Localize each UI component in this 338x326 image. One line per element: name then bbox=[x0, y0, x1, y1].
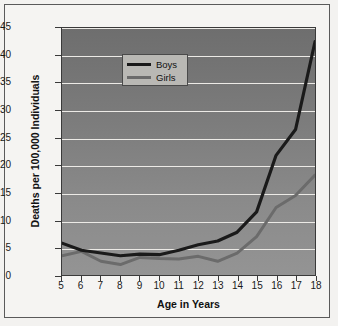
x-tick-mark bbox=[257, 276, 258, 281]
x-tick-label: 13 bbox=[208, 281, 228, 291]
x-tick-mark bbox=[81, 276, 82, 281]
y-tick-label: 30 bbox=[0, 105, 11, 115]
x-tick-mark bbox=[179, 276, 180, 281]
chart-frame: Deaths per 100,000 Individuals 051015202… bbox=[4, 4, 330, 318]
chart-legend: Boys Girls bbox=[122, 54, 188, 86]
y-tick-label: 15 bbox=[0, 188, 11, 198]
plot-area: Boys Girls bbox=[61, 27, 316, 276]
line-series-boys bbox=[62, 42, 315, 256]
legend-item-girls: Girls bbox=[127, 71, 183, 84]
x-tick-mark bbox=[159, 276, 160, 281]
x-axis-title: Age in Years bbox=[61, 298, 316, 310]
x-tick-mark bbox=[61, 276, 62, 281]
x-tick-mark bbox=[139, 276, 140, 281]
line-series-girls bbox=[62, 175, 315, 264]
x-tick-label: 17 bbox=[286, 281, 306, 291]
y-axis-title: Deaths per 100,000 Individuals bbox=[29, 41, 41, 261]
x-tick-label: 8 bbox=[110, 281, 130, 291]
y-tick-label: 10 bbox=[0, 216, 11, 226]
y-tick-label: 20 bbox=[0, 160, 11, 170]
y-tick-label: 45 bbox=[0, 22, 11, 32]
x-tick-mark bbox=[120, 276, 121, 281]
x-tick-label: 16 bbox=[267, 281, 287, 291]
x-tick-mark bbox=[277, 276, 278, 281]
y-tick-label: 40 bbox=[0, 50, 11, 60]
y-tick-label: 35 bbox=[0, 77, 11, 87]
x-tick-label: 18 bbox=[306, 281, 326, 291]
y-tick-label: 0 bbox=[0, 271, 11, 281]
x-tick-label: 5 bbox=[51, 281, 71, 291]
x-tick-label: 12 bbox=[188, 281, 208, 291]
x-tick-mark bbox=[100, 276, 101, 281]
x-tick-mark bbox=[218, 276, 219, 281]
x-tick-label: 7 bbox=[90, 281, 110, 291]
data-series-svg bbox=[62, 28, 315, 275]
x-tick-mark bbox=[296, 276, 297, 281]
legend-label-girls: Girls bbox=[156, 73, 176, 83]
x-tick-mark bbox=[316, 276, 317, 281]
legend-swatch-girls bbox=[127, 76, 151, 79]
x-tick-label: 6 bbox=[71, 281, 91, 291]
x-tick-label: 10 bbox=[149, 281, 169, 291]
x-tick-label: 14 bbox=[228, 281, 248, 291]
legend-label-boys: Boys bbox=[156, 60, 177, 70]
x-tick-label: 15 bbox=[247, 281, 267, 291]
legend-swatch-boys bbox=[127, 63, 151, 66]
x-tick-label: 11 bbox=[169, 281, 189, 291]
legend-item-boys: Boys bbox=[127, 58, 183, 71]
y-tick-label: 5 bbox=[0, 243, 11, 253]
x-tick-mark bbox=[238, 276, 239, 281]
y-tick-label: 25 bbox=[0, 133, 11, 143]
x-tick-label: 9 bbox=[129, 281, 149, 291]
x-tick-mark bbox=[198, 276, 199, 281]
